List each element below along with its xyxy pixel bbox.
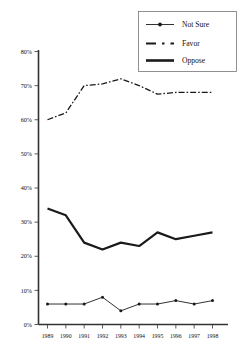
x-tick-label: 1997 [188,333,200,339]
legend-label: Oppose [182,56,206,65]
data-point-marker [101,296,104,299]
data-point-marker [46,303,49,306]
series-favor [48,79,213,120]
series-line [48,208,213,249]
x-tick-label: 1994 [133,333,145,339]
x-tick-label: 1998 [207,333,219,339]
y-tick-label: 60% [21,116,32,123]
y-tick-label: 30% [21,218,32,225]
x-tick-label: 1995 [152,333,164,339]
legend-label: Not Sure [182,20,210,29]
y-tick-label: 20% [21,252,32,259]
x-axis-tick-labels: 1989199019911992199319941995199619971998 [42,333,219,339]
chart-container: 0%10%20%30%40%50%60%70%80% 1989199019911… [0,0,247,355]
x-tick-label: 1996 [170,333,182,339]
x-tick-label: 1993 [115,333,127,339]
y-tick-label: 10% [21,287,32,294]
y-axis-tick-labels: 0%10%20%30%40%50%60%70%80% [21,48,32,328]
x-tick-label: 1991 [78,333,90,339]
series-not-sure [46,296,214,313]
data-point-marker [193,303,196,306]
series-line [48,297,213,311]
y-tick-label: 40% [21,184,32,191]
data-point-marker [64,303,67,306]
data-point-marker [83,303,86,306]
series-line [48,79,213,120]
legend: Not SureFavorOppose [139,12,237,72]
x-tick-label: 1992 [97,333,109,339]
data-point-marker [174,299,177,302]
legend-label: Favor [182,39,200,48]
data-point-marker [211,299,214,302]
x-tick-label: 1989 [42,333,54,339]
x-tick-label: 1990 [60,333,72,339]
line-chart: 0%10%20%30%40%50%60%70%80% 1989199019911… [0,0,247,355]
data-point-marker [119,309,122,312]
y-tick-label: 50% [21,150,32,157]
data-point-marker [138,303,141,306]
y-tick-label: 80% [21,48,32,55]
y-tick-label: 70% [21,82,32,89]
y-tick-label: 0% [24,321,32,328]
data-point-marker [156,303,159,306]
series-oppose [48,208,213,249]
series-layer [46,79,214,313]
legend-swatch-marker [158,23,162,27]
